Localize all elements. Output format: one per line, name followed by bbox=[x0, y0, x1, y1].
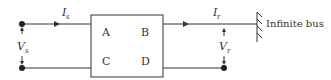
receiving-bottom-terminal bbox=[221, 65, 227, 71]
sending-current-subscript: s bbox=[66, 13, 70, 21]
receiving-current-arrow-icon bbox=[183, 21, 189, 27]
param-a: A bbox=[101, 26, 111, 39]
sending-current-arrow-icon bbox=[54, 21, 60, 27]
infinite-bus-label: Infinite bus bbox=[266, 18, 324, 29]
param-c: C bbox=[102, 55, 110, 68]
sending-bottom-terminal bbox=[19, 65, 25, 71]
vr-arrow-up-icon bbox=[222, 28, 226, 32]
vr-arrow-down-icon bbox=[222, 61, 226, 65]
receiving-current-subscript: r bbox=[217, 13, 221, 21]
vs-arrow-down-icon bbox=[20, 61, 24, 65]
sending-top-terminal bbox=[19, 21, 25, 27]
sending-voltage-subscript: s bbox=[25, 47, 29, 55]
param-d: D bbox=[141, 55, 150, 68]
param-b: B bbox=[141, 26, 149, 39]
vs-arrow-up-icon bbox=[20, 27, 24, 31]
infinite-bus-icon bbox=[257, 12, 262, 42]
receiving-voltage-subscript: r bbox=[227, 47, 231, 55]
two-port-diagram: V s I s A B C D I r V r Infinite bus bbox=[0, 0, 331, 80]
